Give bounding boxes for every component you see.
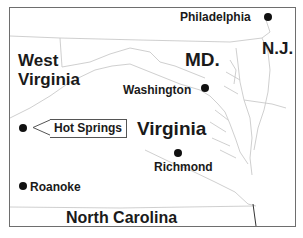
city-label-richmond: Richmond	[154, 161, 213, 173]
state-label-new-jersey: N.J.	[262, 40, 293, 57]
city-dot-philadelphia	[264, 13, 272, 21]
state-label-virginia: Virginia	[137, 119, 206, 138]
city-label-philadelphia: Philadelphia	[180, 11, 251, 23]
state-label-north-carolina: North Carolina	[66, 210, 177, 226]
city-label-roanoke: Roanoke	[30, 181, 81, 193]
city-dot-hot-springs	[19, 124, 27, 132]
state-label-west-virginia-line2: Virginia	[18, 71, 80, 88]
city-dot-washington	[201, 84, 209, 92]
city-label-washington: Washington	[123, 84, 191, 96]
city-dot-richmond	[174, 149, 182, 157]
state-label-west-virginia-line1: West	[18, 52, 58, 69]
city-dot-roanoke	[19, 182, 27, 190]
city-label-hot-springs: Hot Springs	[50, 119, 127, 138]
callout-pointer-icon	[32, 119, 52, 136]
state-label-maryland: MD.	[185, 50, 220, 69]
